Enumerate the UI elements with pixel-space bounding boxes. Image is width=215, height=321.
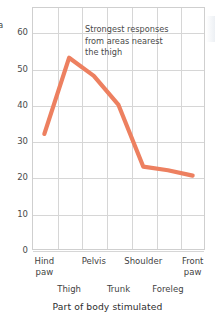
x-axis-tick-label: Front paw	[182, 256, 204, 277]
y-axis-tick-label: 20	[2, 172, 28, 182]
x-axis-tick-label: Hind paw	[35, 256, 55, 277]
y-axis-tick-labels: 0102030405060	[0, 7, 28, 250]
gridline-vertical	[58, 8, 59, 249]
x-axis-tick-label: Thigh	[57, 284, 81, 295]
y-axis-tick-label: 40	[2, 100, 28, 110]
x-axis-tick-label: Shoulder	[124, 256, 162, 267]
x-axis-labels-row-bottom: ThighTrunkForeleg	[32, 282, 205, 296]
x-axis-labels-row-top: Hind pawPelvisShoulderFront paw	[32, 254, 205, 280]
gridline-vertical	[181, 8, 182, 249]
line-chart-figure: a 0102030405060 Strongest responses from…	[0, 0, 215, 321]
annotation-line-1: Strongest responses	[85, 24, 169, 36]
annotation-strongest-responses: Strongest responses from areas nearest t…	[85, 24, 169, 59]
x-axis-tick-label: Pelvis	[82, 256, 106, 267]
y-axis-tick-label: 0	[2, 245, 28, 255]
x-axis-tick-label: Foreleg	[152, 284, 183, 295]
y-axis-tick-label: 50	[2, 64, 28, 74]
gridline-horizontal	[33, 251, 204, 252]
annotation-line-3: the thigh	[85, 47, 169, 59]
y-axis-tick-label: 30	[2, 136, 28, 146]
page-edge-artifact	[206, 16, 215, 42]
y-axis-tick-label: 60	[2, 27, 28, 37]
y-axis-tick-label: 10	[2, 209, 28, 219]
x-axis-title: Part of body stimulated	[0, 301, 215, 312]
gridline-vertical	[82, 8, 83, 249]
annotation-line-2: from areas nearest	[85, 36, 169, 48]
x-axis-tick-label: Trunk	[107, 284, 130, 295]
